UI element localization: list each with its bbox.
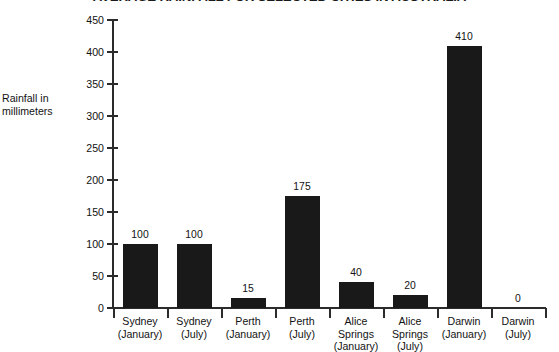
- y-axis-tick-label: 250: [60, 142, 104, 154]
- y-axis-tick: [107, 211, 118, 213]
- x-axis-category-label: AliceSprings(July): [392, 315, 428, 352]
- y-axis-tick: [107, 243, 118, 245]
- bar-value-label: 40: [350, 267, 362, 278]
- y-axis-tick: [107, 275, 118, 277]
- bar-value-label: 100: [131, 229, 148, 240]
- x-axis-category-label: Perth(January): [226, 315, 271, 340]
- bar: [123, 244, 158, 308]
- y-axis-tick: [107, 179, 118, 181]
- y-axis-tick: [107, 115, 118, 117]
- bar: [285, 196, 320, 308]
- x-axis-category-label-line: Perth: [289, 315, 315, 328]
- y-axis-tick-label: 100: [60, 238, 104, 250]
- x-axis-category-label: Sydney(January): [118, 315, 163, 340]
- x-axis-category-label-line: Springs: [392, 328, 428, 341]
- bar-value-label: 20: [404, 280, 416, 291]
- x-axis-category-label-line: Sydney: [176, 315, 211, 328]
- x-axis-category-label-line: (January): [442, 328, 487, 341]
- x-axis-tick: [329, 308, 331, 318]
- x-axis-tick: [113, 308, 115, 318]
- bar: [339, 282, 374, 308]
- x-axis-category-label: Sydney(July): [176, 315, 211, 340]
- x-axis-category-label-line: (July): [392, 340, 428, 352]
- y-axis-tick-label: 400: [60, 46, 104, 58]
- y-axis-tick: [107, 19, 118, 21]
- y-axis-tick-label: 450: [60, 14, 104, 26]
- bar: [177, 244, 212, 308]
- x-axis-category-label-line: Sydney: [118, 315, 163, 328]
- x-axis-category-label-line: (July): [289, 328, 315, 341]
- bar: [231, 298, 266, 308]
- x-axis-category-label-line: Darwin: [502, 315, 535, 328]
- y-axis-tick-label: 0: [60, 302, 104, 314]
- x-axis-tick: [545, 308, 547, 318]
- x-axis-category-label-line: Darwin: [442, 315, 487, 328]
- bar-value-label: 175: [293, 181, 310, 192]
- bar-value-label: 0: [515, 293, 521, 304]
- x-axis-category-label-line: Springs: [334, 328, 379, 341]
- x-axis-category-label: Perth(July): [289, 315, 315, 340]
- x-axis-category-label: Darwin(January): [442, 315, 487, 340]
- x-axis-tick: [491, 308, 493, 318]
- x-axis-tick: [383, 308, 385, 318]
- x-axis-category-label-line: Alice: [334, 315, 379, 328]
- x-axis-category-label-line: Alice: [392, 315, 428, 328]
- x-axis-tick: [167, 308, 169, 318]
- x-axis-category-label-line: (July): [176, 328, 211, 341]
- y-axis-line: [112, 20, 114, 309]
- bar-chart: AVERAGE RAINFALL FOR SELECTED CITIES IN …: [0, 0, 559, 352]
- bar: [393, 295, 428, 308]
- y-axis-tick-labels: 050100150200250300350400450: [58, 0, 104, 352]
- x-axis-tick: [221, 308, 223, 318]
- y-axis-tick-label: 150: [60, 206, 104, 218]
- y-axis-tick-label: 200: [60, 174, 104, 186]
- x-axis-category-label-line: (January): [334, 340, 379, 352]
- x-axis-category-label-line: Perth: [226, 315, 271, 328]
- x-axis-category-label-line: (January): [118, 328, 163, 341]
- y-axis-tick: [107, 147, 118, 149]
- bar: [447, 46, 482, 308]
- y-axis-tick-label: 300: [60, 110, 104, 122]
- bar-value-label: 410: [455, 31, 472, 42]
- bar-value-label: 15: [242, 283, 254, 294]
- x-axis-tick: [275, 308, 277, 318]
- x-axis-category-label-line: (January): [226, 328, 271, 341]
- y-axis-tick: [107, 83, 118, 85]
- x-axis-category-label: AliceSprings(January): [334, 315, 379, 352]
- y-axis-tick-label: 50: [60, 270, 104, 282]
- x-axis-category-label: Darwin(July): [502, 315, 535, 340]
- x-axis-category-label-line: (July): [502, 328, 535, 341]
- x-axis-tick: [437, 308, 439, 318]
- y-axis-tick-label: 350: [60, 78, 104, 90]
- y-axis-tick: [107, 51, 118, 53]
- bar-value-label: 100: [185, 229, 202, 240]
